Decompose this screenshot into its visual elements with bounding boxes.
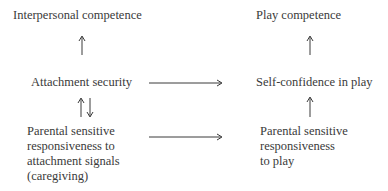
arrow-right-icon [149,80,222,86]
arrow-up-icon [307,97,313,117]
arrow-up-icon [79,36,85,55]
arrow-up-icon [307,36,313,55]
arrow-bidirectional-icon [78,98,93,117]
arrows-layer [0,0,388,191]
arrow-right-icon [149,134,222,140]
